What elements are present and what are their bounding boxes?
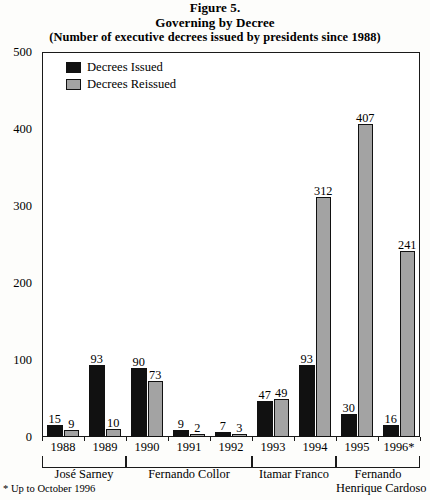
figure-number: Figure 5.	[0, 1, 430, 16]
president-bracket-tick	[126, 456, 127, 468]
president-bracket-tick	[336, 456, 337, 468]
bar-group: 159	[42, 52, 84, 437]
president-label-line: Henrique Cardoso	[336, 482, 420, 496]
bar-group: 9310	[84, 52, 126, 437]
bar-group: 30407	[336, 52, 378, 437]
bar-group: 9073	[126, 52, 168, 437]
bar-issued: 93	[299, 365, 315, 437]
president-label: Itamar Franco	[252, 468, 336, 482]
y-axis-tick-label: 0	[0, 431, 38, 443]
bar-value-label: 49	[275, 387, 287, 399]
bar-reissued: 73	[148, 381, 164, 437]
figure-subtitle: (Number of executive decrees issued by p…	[0, 30, 430, 45]
bar-value-label: 3	[236, 422, 242, 434]
x-axis-year-label: 1995	[336, 441, 378, 454]
page-title: Governing by Decree	[0, 16, 430, 31]
y-axis-tick-label: 100	[0, 354, 38, 366]
bar-value-label: 90	[133, 356, 145, 368]
bar-issued: 9	[173, 430, 189, 437]
bar-group: 16241	[378, 52, 420, 437]
bar-value-label: 9	[68, 418, 74, 430]
president-bracket-tick	[42, 456, 43, 468]
x-axis-year-label: 1989	[84, 441, 126, 454]
x-axis-year-label: 1990	[126, 441, 168, 454]
y-axis-tick-label: 500	[0, 46, 38, 58]
bar-value-label: 93	[301, 353, 313, 365]
bar-reissued: 407	[358, 124, 374, 437]
bar-value-label: 47	[259, 389, 271, 401]
president-label: José Sarney	[42, 468, 126, 482]
bar-reissued: 49	[274, 399, 290, 437]
bar-reissued: 9	[64, 430, 80, 437]
bar-value-label: 312	[314, 185, 332, 197]
bar-value-label: 241	[398, 239, 416, 251]
x-axis-year-label: 1993	[252, 441, 294, 454]
president-label: Fernando Collor	[126, 468, 252, 482]
president-bracket-tick	[419, 456, 420, 468]
bar-value-label: 10	[107, 417, 119, 429]
y-axis: 0100200300400500	[0, 52, 38, 437]
bar-issued: 90	[131, 368, 147, 437]
x-axis-year-label: 1991	[168, 441, 210, 454]
bar-value-label: 7	[220, 420, 226, 432]
bar-issued: 15	[47, 425, 63, 437]
bar-groups: 1599310907392734749933123040716241	[42, 52, 420, 437]
x-axis-year-label: 1994	[294, 441, 336, 454]
bar-group: 73	[210, 52, 252, 437]
bar-value-label: 15	[49, 413, 61, 425]
y-axis-tick-label: 200	[0, 277, 38, 289]
president-label: FernandoHenrique Cardoso	[336, 468, 420, 495]
bar-value-label: 73	[149, 369, 161, 381]
bar-issued: 30	[341, 414, 357, 437]
president-bracket-tick	[252, 456, 253, 468]
y-axis-tick-label: 300	[0, 200, 38, 212]
x-axis-year-labels: 198819891990199119921993199419951996*	[42, 441, 420, 456]
figure-title-block: Figure 5. Governing by Decree (Number of…	[0, 1, 430, 45]
bar-value-label: 93	[91, 353, 103, 365]
bar-value-label: 407	[356, 112, 374, 124]
bar-value-label: 9	[178, 418, 184, 430]
bar-group: 92	[168, 52, 210, 437]
bar-issued: 16	[383, 425, 399, 437]
footnote: * Up to October 1996	[3, 483, 95, 495]
bar-value-label: 16	[385, 413, 397, 425]
bar-value-label: 30	[343, 402, 355, 414]
bar-group: 4749	[252, 52, 294, 437]
figure-5-governing-by-decree: Figure 5. Governing by Decree (Number of…	[0, 0, 430, 500]
bar-value-label: 2	[194, 422, 200, 434]
bar-group: 93312	[294, 52, 336, 437]
x-axis-year-label: 1996*	[378, 441, 420, 454]
bar-issued: 93	[89, 365, 105, 437]
x-axis-tick	[420, 437, 421, 441]
x-axis-year-label: 1988	[42, 441, 84, 454]
bar-reissued: 241	[400, 251, 416, 437]
bar-issued: 47	[257, 401, 273, 437]
president-label-line: Fernando	[336, 468, 420, 482]
bar-reissued: 312	[316, 197, 332, 437]
x-axis-year-label: 1992	[210, 441, 252, 454]
bar-reissued: 10	[106, 429, 122, 437]
y-axis-tick-label: 400	[0, 123, 38, 135]
